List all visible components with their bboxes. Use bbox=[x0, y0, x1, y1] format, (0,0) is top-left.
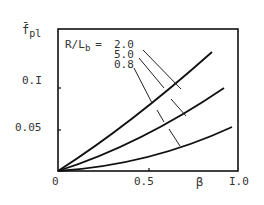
legend-title: R/Lb= bbox=[65, 38, 102, 53]
legend-entry-0.8: 0.8 bbox=[114, 58, 134, 71]
chart: R/Lb= 2.0 5.0 0.8 f̄pl 0.I 0.05 0 0.5 β … bbox=[0, 0, 264, 205]
x-tick-label-1.0: I.0 bbox=[229, 175, 249, 188]
y-tick-label-0.05: 0.05 bbox=[15, 121, 42, 134]
x-axis-label: β bbox=[196, 175, 203, 189]
x-tick-label-0: 0 bbox=[52, 175, 59, 188]
y-axis-label: f̄pl bbox=[22, 22, 41, 39]
curve-series-0.8 bbox=[58, 127, 232, 171]
x-tick-label-0.5: 0.5 bbox=[134, 175, 154, 188]
y-tick-label-0.1: 0.I bbox=[22, 74, 42, 87]
